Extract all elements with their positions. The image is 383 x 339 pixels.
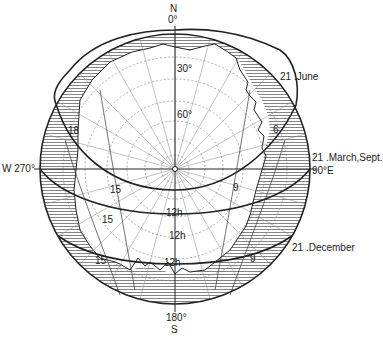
hour-label: 15 (95, 256, 106, 266)
hour-label: 9 (233, 183, 239, 193)
zenith-marker (173, 167, 178, 172)
hour-label: 12h (169, 231, 186, 241)
hour-label: 15 (110, 185, 121, 195)
north-letter: N (170, 4, 177, 14)
hour-label: 15 (102, 215, 113, 225)
hour-label: 12h (166, 208, 183, 218)
hour-label: 18 (68, 126, 79, 136)
altitude-30-label: 30° (177, 64, 192, 74)
hour-label: 9 (250, 254, 256, 264)
west-label: W 270° (2, 164, 35, 174)
hour-label: 6 (273, 125, 279, 135)
hour-label: 12h (164, 258, 181, 268)
equinox-label: 21 .March,Sept. (312, 153, 383, 163)
north-degree: 0° (168, 15, 178, 25)
december-label: 21 .December (292, 243, 355, 253)
altitude-60-label: 60° (177, 110, 192, 120)
south-letter: S (171, 325, 178, 335)
june-label: 21 .June (280, 72, 318, 82)
south-degree: 180° (166, 313, 187, 323)
east-label: 90°E (312, 166, 334, 176)
